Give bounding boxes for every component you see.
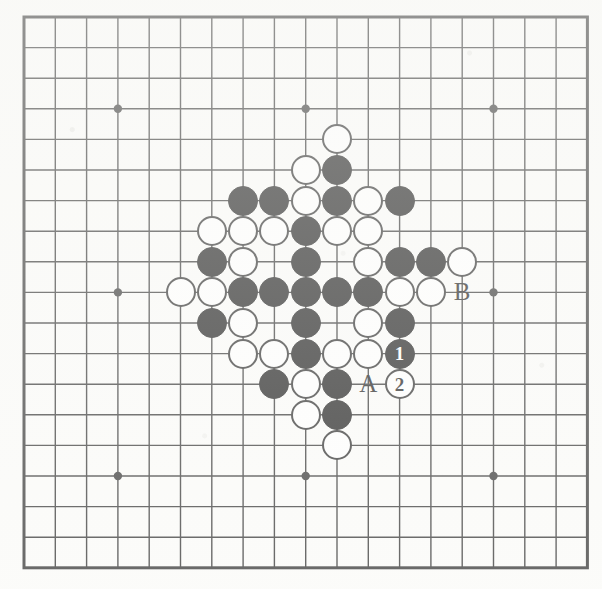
point-label-layer: AB: [0, 0, 602, 589]
board-point-label-b: B: [447, 279, 477, 304]
go-board-diagram: 12 AB: [0, 0, 602, 589]
board-point-label-a: A: [353, 371, 383, 396]
